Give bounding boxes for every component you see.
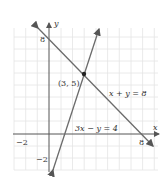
equation-label-1: x + y = 8: [109, 89, 147, 98]
y-tick-8: 8: [40, 35, 45, 44]
y-axis-label: y: [53, 19, 59, 28]
y-tick-neg2: −2: [36, 155, 48, 164]
equation-label-2: 3x − y = 4: [75, 124, 118, 133]
x-axis-label: x: [153, 123, 158, 132]
graph: y x 8 −2 −2 8 (3, 5) x + y = 8 3x − y = …: [0, 0, 168, 183]
point-label: (3, 5): [58, 79, 80, 88]
grid: [14, 28, 158, 170]
intersection-point: [82, 72, 86, 76]
x-tick-8: 8: [139, 138, 144, 147]
x-tick-neg2: −2: [16, 138, 28, 147]
